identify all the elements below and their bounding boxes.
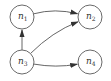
edge-n3-to-n4 xyxy=(34,64,77,66)
directed-graph: n1n2n3n4 xyxy=(0,0,111,81)
edge-n1-to-n2 xyxy=(34,11,78,14)
edge-n3-to-n2 xyxy=(30,22,77,54)
node-n3: n3 xyxy=(10,50,34,74)
node-n4: n4 xyxy=(78,50,102,74)
nodes: n1n2n3n4 xyxy=(10,5,102,74)
node-n2: n2 xyxy=(78,5,102,29)
node-n1: n1 xyxy=(10,5,34,29)
